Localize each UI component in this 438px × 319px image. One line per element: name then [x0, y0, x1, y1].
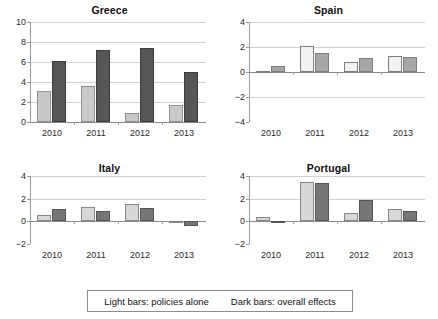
bar-group	[30, 22, 74, 122]
y-axis-tick-mark	[246, 244, 249, 245]
x-axis-tick-mark	[74, 122, 75, 125]
legend-dark-label: Dark bars: overall effects	[231, 296, 336, 307]
y-axis-tick-label: 4	[240, 17, 245, 27]
x-axis-tick-label: 2012	[118, 128, 162, 138]
bar-dark	[140, 208, 154, 222]
x-axis-tick-label: 2012	[118, 250, 162, 260]
bar-light	[256, 71, 270, 73]
y-axis-tick-label: −2	[235, 239, 245, 249]
x-axis-tick-label: 2011	[293, 250, 337, 260]
bar-group	[74, 176, 118, 244]
x-axis-tick-label: 2010	[30, 250, 74, 260]
y-axis-tick-label: 2	[21, 97, 26, 107]
bar-dark	[315, 183, 329, 222]
bar-group	[162, 176, 206, 244]
bar-group	[30, 176, 74, 244]
x-axis-tick-mark	[381, 221, 382, 224]
y-axis-tick-label: 0	[21, 216, 26, 226]
x-axis-tick-label: 2012	[337, 250, 381, 260]
bar-light	[388, 56, 402, 72]
x-axis-tick-mark	[118, 122, 119, 125]
bar-dark	[140, 48, 154, 122]
x-axis-tick-mark	[293, 72, 294, 75]
x-axis-tick-label: 2010	[30, 128, 74, 138]
bar-group	[162, 22, 206, 122]
plot-area-italy: −20242010201120122013	[30, 176, 206, 244]
bar-dark	[271, 66, 285, 72]
bar-light	[169, 105, 183, 122]
bar-groups	[30, 176, 206, 244]
y-axis-tick-label: 8	[21, 37, 26, 47]
bar-group	[381, 176, 425, 244]
bar-light	[37, 91, 51, 122]
panel-title-greece: Greece	[0, 4, 219, 16]
bar-group	[337, 22, 381, 122]
y-axis-tick-label: 2	[240, 194, 245, 204]
x-axis-tick-label: 2013	[381, 250, 425, 260]
bar-dark	[315, 53, 329, 72]
bar-light	[81, 207, 95, 221]
x-axis-tick-mark	[162, 122, 163, 125]
y-axis-tick-label: 10	[16, 17, 26, 27]
bar-light	[256, 217, 270, 222]
x-axis-tick-label: 2013	[381, 128, 425, 138]
bar-dark	[52, 61, 66, 122]
y-axis-tick-label: 0	[21, 117, 26, 127]
bar-light	[344, 62, 358, 72]
legend-box: Light bars: policies alone Dark bars: ov…	[87, 290, 353, 312]
bar-group	[337, 176, 381, 244]
bar-light	[388, 209, 402, 221]
bar-dark	[96, 211, 110, 222]
bar-light	[300, 182, 314, 221]
legend-light-label: Light bars: policies alone	[104, 296, 209, 307]
bar-light	[81, 86, 95, 122]
y-axis-tick-label: 0	[240, 67, 245, 77]
bar-light	[125, 204, 139, 222]
panel-italy: Italy −20242010201120122013	[0, 158, 219, 283]
bar-group	[293, 22, 337, 122]
y-axis-tick-label: −2	[235, 92, 245, 102]
bar-dark	[271, 221, 285, 223]
bar-groups	[249, 176, 425, 244]
x-axis-tick-mark	[74, 221, 75, 224]
plot-area-greece: 02468102010201120122013	[30, 22, 206, 122]
x-axis-tick-label: 2012	[337, 128, 381, 138]
x-axis-tick-mark	[337, 72, 338, 75]
x-axis-tick-label: 2013	[162, 128, 206, 138]
bar-light	[125, 113, 139, 122]
panel-portugal: Portugal −20242010201120122013	[219, 158, 438, 283]
x-axis-labels: 2010201120122013	[30, 128, 206, 138]
x-axis-labels: 2010201120122013	[30, 250, 206, 260]
bar-light	[169, 221, 183, 223]
y-axis-tick-label: −4	[235, 117, 245, 127]
x-axis-tick-label: 2011	[293, 128, 337, 138]
x-axis-labels: 2010201120122013	[249, 250, 425, 260]
y-axis-tick-label: 4	[21, 171, 26, 181]
bar-group	[118, 22, 162, 122]
y-axis-tick-label: 4	[240, 171, 245, 181]
bar-dark	[184, 72, 198, 123]
plot-area-spain: −4−20242010201120122013	[249, 22, 425, 122]
x-axis-tick-mark	[293, 221, 294, 224]
y-axis-tick-label: −2	[16, 239, 26, 249]
bar-group	[249, 176, 293, 244]
x-axis-tick-mark	[162, 221, 163, 224]
chart-panel-grid: Greece 02468102010201120122013 Spain −4−…	[0, 0, 438, 283]
plot-area-portugal: −20242010201120122013	[249, 176, 425, 244]
x-axis-tick-label: 2010	[249, 250, 293, 260]
panel-spain: Spain −4−20242010201120122013	[219, 0, 438, 158]
y-axis-tick-label: 0	[240, 216, 245, 226]
bar-group	[293, 176, 337, 244]
bar-light	[300, 46, 314, 72]
bar-groups	[30, 22, 206, 122]
x-axis-tick-mark	[337, 221, 338, 224]
bar-light	[37, 215, 51, 222]
y-axis-tick-mark	[246, 122, 249, 123]
panel-greece: Greece 02468102010201120122013	[0, 0, 219, 158]
y-axis-tick-label: 2	[21, 194, 26, 204]
bar-dark	[359, 200, 373, 222]
y-axis-tick-mark	[27, 244, 30, 245]
panel-title-spain: Spain	[219, 4, 438, 16]
bar-group	[74, 22, 118, 122]
bar-dark	[52, 209, 66, 221]
